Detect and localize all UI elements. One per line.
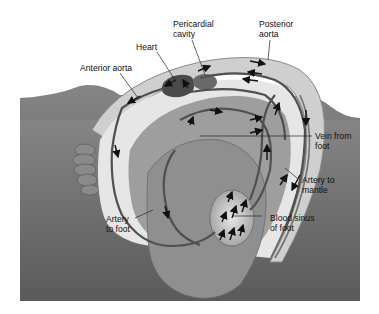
- label-anterior-aorta: Anterior aorta: [80, 63, 132, 73]
- label-pericardial-cavity: Pericardial cavity: [173, 19, 214, 39]
- label-posterior-aorta: Posterior aorta: [259, 19, 293, 39]
- label-blood-sinus-of-foot: Blood sinus of foot: [270, 213, 314, 233]
- label-artery-to-foot: Artery to foot: [106, 214, 130, 234]
- label-vein-from-foot: Vein from foot: [315, 131, 351, 151]
- circulatory-diagram: [0, 0, 379, 314]
- label-artery-to-mantle: Artery to mantle: [302, 175, 334, 195]
- label-heart: Heart: [136, 42, 157, 52]
